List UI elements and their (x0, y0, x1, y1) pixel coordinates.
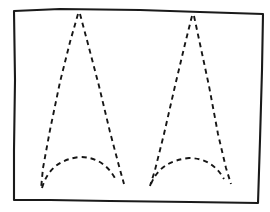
paper-background (0, 0, 270, 212)
figure-root (0, 0, 270, 212)
line-drawing-canvas (0, 0, 270, 212)
